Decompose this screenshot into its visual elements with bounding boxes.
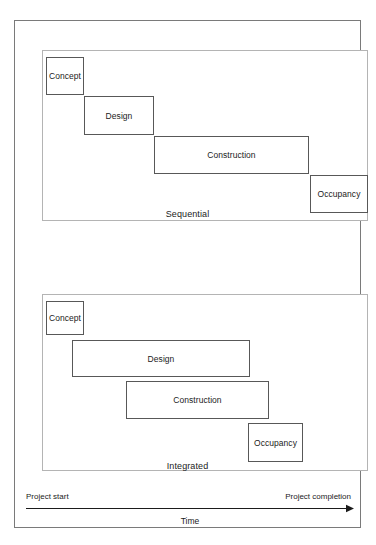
axis-label-project-start: Project start (26, 492, 69, 501)
phase-box-sequential-occupancy: Occupancy (310, 175, 368, 213)
panel-integrated: Concept Design Construction Occupancy (42, 294, 368, 471)
phase-box-integrated-occupancy: Occupancy (248, 423, 303, 462)
time-arrow-icon (26, 503, 354, 515)
phase-box-sequential-concept: Concept (46, 57, 84, 95)
phase-label: Construction (207, 150, 255, 160)
phase-label: Occupancy (254, 438, 297, 448)
panel-sequential: Concept Design Construction Occupancy (42, 50, 368, 221)
phase-label: Concept (49, 71, 81, 81)
time-axis: Project start Project completion Time (26, 492, 354, 532)
caption-sequential: Sequential (14, 209, 361, 219)
phase-box-sequential-construction: Construction (154, 136, 309, 174)
axis-title-time: Time (26, 516, 354, 526)
figure-outer-frame: Concept Design Construction Occupancy Co… (14, 20, 361, 528)
caption-integrated: Integrated (14, 461, 361, 471)
phase-label: Concept (49, 313, 81, 323)
phase-box-sequential-design: Design (84, 96, 154, 135)
phase-label: Occupancy (318, 189, 361, 199)
phase-box-integrated-construction: Construction (126, 381, 269, 419)
phase-box-integrated-concept: Concept (46, 301, 84, 335)
phase-box-integrated-design: Design (72, 340, 250, 377)
phase-label: Design (148, 354, 175, 364)
phase-label: Design (106, 111, 133, 121)
axis-label-project-completion: Project completion (285, 492, 351, 501)
phase-label: Construction (173, 395, 221, 405)
project-delivery-diagram: Concept Design Construction Occupancy Co… (0, 0, 376, 545)
